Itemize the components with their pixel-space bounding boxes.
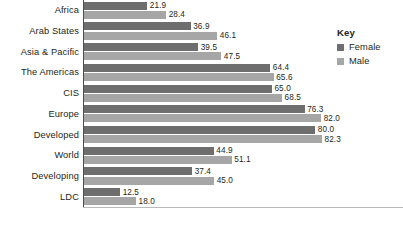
bar-value-label: 37.4 [195,168,211,176]
bar-female [84,126,315,134]
legend-label: Male [349,57,370,66]
category-axis-labels: AfricaArab StatesAsia & PacificThe Ameri… [0,0,79,207]
bar-female [84,22,191,30]
bar-value-label: 82.0 [324,115,340,123]
legend-swatch-icon [337,44,344,51]
legend-swatch-icon [337,58,344,65]
bar-female [84,2,147,10]
legend-items: FemaleMale [337,43,403,66]
bar-value-label: 45.0 [217,177,233,185]
category-label: Africa [0,5,79,15]
bar-male [84,52,221,60]
bar-female [84,105,305,113]
legend-item-male[interactable]: Male [337,57,403,66]
bar-value-label: 39.5 [201,44,217,52]
bar-female [84,188,120,196]
bar-value-label: 44.9 [216,147,232,155]
bar-male [84,114,321,122]
bar-value-label: 18.0 [139,198,155,206]
bar-male [84,135,322,143]
bar-male [84,177,214,185]
bar-value-label: 36.9 [193,23,209,31]
bar-value-label: 21.9 [150,2,166,10]
bar-female [84,147,214,155]
bar-male [84,94,282,102]
bar-value-label: 51.1 [234,156,250,164]
bar-value-label: 46.1 [220,32,236,40]
bar-male [84,73,274,81]
bar-value-label: 76.3 [307,106,323,114]
legend-item-female[interactable]: Female [337,43,403,52]
x-axis-baseline [83,207,403,208]
bar-male [84,32,217,40]
category-label: Arab States [0,26,79,36]
chart-legend: Key FemaleMale [337,27,403,71]
category-label: World [0,150,79,160]
category-label: LDC [0,192,79,202]
bar-female [84,167,192,175]
bar-value-label: 65.6 [276,74,292,82]
bar-value-label: 80.0 [318,126,334,134]
bar-value-label: 68.5 [285,94,301,102]
category-label: Developed [0,130,79,140]
bar-value-label: 65.0 [274,85,290,93]
bar-value-label: 64.4 [273,64,289,72]
bar-value-label: 28.4 [169,11,185,19]
bar-value-label: 82.3 [325,136,341,144]
category-label: Developing [0,171,79,181]
legend-label: Female [349,43,381,52]
bar-female [84,43,198,51]
bar-male [84,11,166,19]
legend-title: Key [337,27,403,38]
bar-female [84,64,270,72]
category-label: The Americas [0,67,79,77]
grouped-bar-chart: AfricaArab StatesAsia & PacificThe Ameri… [0,0,403,232]
bar-value-label: 47.5 [224,53,240,61]
category-label: Asia & Pacific [0,47,79,57]
bar-male [84,197,136,205]
category-label: Europe [0,109,79,119]
category-label: CIS [0,88,79,98]
bar-value-label: 12.5 [123,189,139,197]
bar-female [84,85,272,93]
bar-male [84,156,232,164]
